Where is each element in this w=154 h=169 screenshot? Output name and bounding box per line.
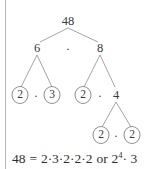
operator-dot-level4: · <box>114 129 118 142</box>
edge-six-right <box>37 55 52 87</box>
equation-lhs: 48 <box>12 151 26 166</box>
edge-eight-left <box>84 55 100 87</box>
edge-four-left <box>102 102 116 127</box>
node-6: 6 <box>34 42 40 55</box>
equation-equals: = <box>29 151 37 166</box>
operator-dot-level2: · <box>66 42 70 55</box>
operator-dot-level3-left: · <box>34 89 38 102</box>
node-prime-2-d: 2 <box>124 126 141 144</box>
factor-tree-figure: 48 6 · 8 2 · 3 2 · 4 2 · 2 48 = 2·3·2·2·… <box>0 0 154 169</box>
equation-expanded: 2·3·2·2·2 <box>41 151 93 166</box>
node-prime-2-a: 2 <box>12 86 29 104</box>
node-prime-2-b: 2 <box>75 86 92 104</box>
edge-six-left <box>21 55 37 87</box>
edge-four-right <box>116 102 131 127</box>
edge-eight-right <box>100 55 115 87</box>
node-prime-2-c: 2 <box>93 126 110 144</box>
node-4: 4 <box>113 89 119 102</box>
operator-dot-level3-right: · <box>98 89 102 102</box>
factorization-equation: 48 = 2·3·2·2·2 or 24· 3 <box>12 151 137 166</box>
edge-root-right <box>68 28 98 42</box>
edge-root-left <box>40 28 68 42</box>
node-prime-3: 3 <box>44 86 61 104</box>
equation-tail: · 3 <box>123 151 138 166</box>
node-root-48: 48 <box>62 15 75 28</box>
node-8: 8 <box>97 42 103 55</box>
equation-connector: or <box>96 151 107 166</box>
